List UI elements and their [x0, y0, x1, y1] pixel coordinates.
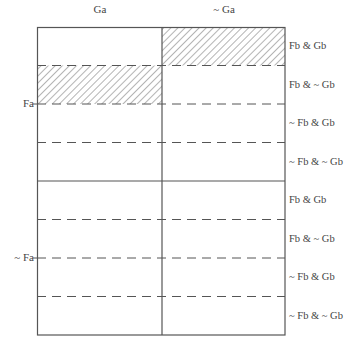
hatched-cell-fa-not-ga-fb-gb — [162, 27, 285, 66]
sub-row-label-8: ~ Fb & ~ Gb — [289, 310, 343, 321]
sub-row-label-6: Fb & ~ Gb — [289, 233, 335, 244]
hatched-cell-fa-ga-fb-not-gb — [38, 66, 162, 105]
sub-row-label-3: ~ Fb & Gb — [289, 117, 335, 128]
sub-row-label-5: Fb & Gb — [289, 194, 326, 205]
sub-row-label-7: ~ Fb & Gb — [289, 271, 335, 282]
sub-row-label-4: ~ Fb & ~ Gb — [289, 156, 343, 167]
sub-row-label-2: Fb & ~ Gb — [289, 79, 335, 90]
sub-row-label-1: Fb & Gb — [289, 40, 326, 51]
truth-table-grid — [0, 0, 359, 345]
